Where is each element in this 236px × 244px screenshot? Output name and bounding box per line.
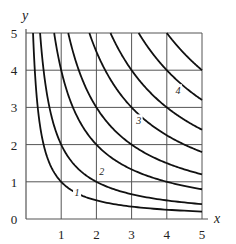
y-tick-4: 4 xyxy=(11,63,18,78)
y-tick-5: 5 xyxy=(11,26,18,41)
curve-label-2: 2 xyxy=(99,166,104,177)
x-tick-2: 2 xyxy=(93,227,100,242)
level-curve-xy=12 xyxy=(110,33,202,130)
level-curve-xy=6 xyxy=(68,33,202,174)
x-axis-label: x xyxy=(213,211,221,226)
y-axis-label: y xyxy=(20,8,29,23)
curve-label-1: 1 xyxy=(75,187,80,198)
x-tick-5: 5 xyxy=(199,227,206,242)
level-curve-xy=9 xyxy=(89,33,202,152)
level-curve-chart: 1234 12345012345 x y xyxy=(0,0,236,244)
level-curve-xy=2 xyxy=(40,33,202,204)
x-tick-1: 1 xyxy=(58,227,65,242)
curve-label-3: 3 xyxy=(135,115,141,126)
y-tick-3: 3 xyxy=(11,100,18,115)
level-curves xyxy=(33,33,202,212)
y-tick-2: 2 xyxy=(11,138,18,153)
y-tick-0: 0 xyxy=(11,212,18,227)
level-curve-xy=20 xyxy=(167,33,202,70)
y-tick-1: 1 xyxy=(11,175,18,190)
x-tick-4: 4 xyxy=(164,227,171,242)
x-tick-3: 3 xyxy=(128,227,135,242)
curve-label-4: 4 xyxy=(176,85,181,96)
